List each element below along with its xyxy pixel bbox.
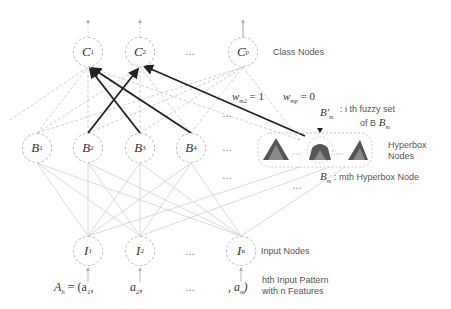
mid-ellipsis: …: [222, 108, 233, 119]
node-letter: C: [237, 44, 246, 60]
class-node-c1: C1: [73, 37, 103, 67]
input-pattern-a1: Ah = (a1,: [54, 280, 93, 296]
weight-mp: wmp = 0: [283, 90, 315, 104]
bm-symbol: Bm: [376, 116, 390, 128]
weight-value: = 1: [249, 90, 263, 102]
hyperbox-nodes-label-line1: Hyperbox: [388, 140, 427, 150]
node-letter: B: [31, 140, 39, 156]
hyperbox-detail: [258, 128, 372, 167]
network-edges: [0, 0, 451, 309]
an-paren: ): [244, 280, 248, 294]
node-subscript: 4: [193, 144, 197, 152]
input-pattern-an: , an): [228, 280, 248, 296]
bm-subscript: m: [327, 178, 331, 184]
node-letter: B: [134, 140, 142, 156]
hyperbox-node-b2: B2: [73, 133, 103, 163]
pattern-equals: = (a: [65, 280, 87, 294]
bm-prime-symbol: B': [320, 106, 329, 118]
weight-subscript: m2: [239, 98, 246, 104]
node-letter: C: [82, 44, 91, 60]
bm-prime-subscript: m: [329, 114, 333, 120]
node-subscript: n: [241, 247, 245, 255]
bm-prime-label: B'm: [320, 106, 333, 120]
weight-subscript: mp: [290, 98, 297, 104]
node-subscript: 2: [143, 48, 147, 56]
node-subscript: 2: [90, 144, 94, 152]
hyperbox-node-b3: B3: [125, 133, 155, 163]
input-pattern-label-line1: hth Input Pattern: [262, 275, 329, 285]
input-pattern-a2: a2,: [130, 280, 143, 296]
hyperbox-node-b1: B1: [22, 133, 52, 163]
weight-m2: wm2 = 1: [232, 90, 264, 104]
input-pattern-label-line2: with n Features: [262, 286, 324, 296]
input-node-i2: I2: [125, 236, 155, 266]
a1-comma: ,: [90, 280, 93, 294]
input-node-in: In: [226, 236, 256, 266]
node-subscript: 1: [88, 247, 92, 255]
node-subscript: 3: [142, 144, 146, 152]
node-letter: C: [134, 44, 143, 60]
fuzzy-set-label-line1: : i th fuzzy set: [340, 104, 395, 114]
node-subscript: 1: [91, 48, 95, 56]
hyperbox-node-b4: B4: [176, 133, 206, 163]
hyperbox-ellipsis-lower: …: [222, 170, 233, 181]
node-subscript: 1: [39, 144, 43, 152]
class-node-c2: C2: [125, 37, 155, 67]
an-symbol: , a: [228, 280, 240, 294]
pattern-ellipsis: …: [185, 282, 196, 293]
node-letter: B: [185, 140, 193, 156]
node-letter: B: [82, 140, 90, 156]
input-ellipsis: …: [185, 246, 196, 257]
fuzzy-set-label-line2: of B Bm: [360, 116, 390, 130]
node-subscript: p: [246, 48, 250, 56]
bm-letter: B: [320, 170, 327, 182]
weight-value: = 0: [300, 90, 314, 102]
class-ellipsis: …: [185, 46, 196, 57]
input-nodes-label: Input Nodes: [261, 246, 310, 256]
a2-comma: ,: [140, 280, 143, 294]
class-nodes-label: Class Nodes: [273, 47, 324, 57]
fuzzy-set-of-text: of B: [360, 118, 376, 128]
hyperbox-nodes-label-line2: Nodes: [388, 151, 414, 161]
hyperbox-node-label: : mth Hyperbox Node: [334, 172, 419, 182]
bm-node-symbol: Bm: [320, 170, 331, 184]
node-subscript: 2: [140, 247, 144, 255]
class-node-cp: Cp: [228, 37, 258, 67]
hyperbox-ellipsis: …: [222, 142, 233, 153]
input-node-i1: I1: [73, 236, 103, 266]
hyperbox-ellipsis-right: …: [292, 180, 303, 191]
